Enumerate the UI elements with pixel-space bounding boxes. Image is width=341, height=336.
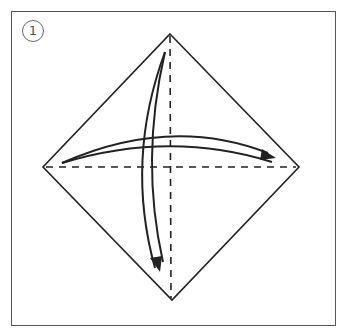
vertical-arrow xyxy=(142,52,165,272)
vertical-fold-line xyxy=(170,36,171,298)
arrowhead-right-icon xyxy=(260,149,276,160)
arrowhead-down-icon xyxy=(150,256,162,272)
origami-diagram xyxy=(0,0,341,336)
horizontal-arrow xyxy=(62,136,276,163)
